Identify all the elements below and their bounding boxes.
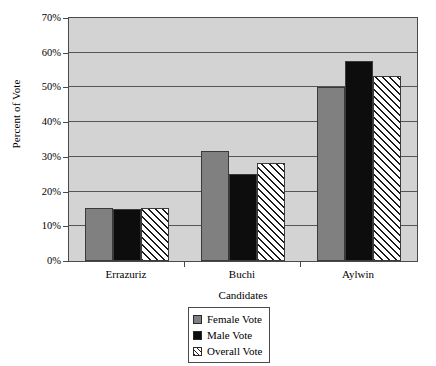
y-axis-tick-label: 10%: [0, 220, 68, 232]
x-axis-tick-mark: [300, 262, 301, 267]
bar-chart: Percent of Vote 0%10%20%30%40%50%60%70% …: [0, 0, 436, 366]
y-axis-tick-label: 30%: [0, 151, 68, 163]
bar-errazuriz-overall: [141, 208, 169, 261]
y-axis-tick-labels: 0%10%20%30%40%50%60%70%: [0, 0, 68, 246]
bar-errazuriz-female: [85, 208, 113, 261]
legend-item: Male Vote: [193, 327, 263, 343]
bar-aylwin-overall: [373, 76, 401, 261]
legend-swatch-male-icon: [193, 331, 202, 340]
legend-label: Male Vote: [207, 329, 252, 341]
bar-aylwin-male: [345, 61, 373, 261]
y-axis-tick-label: 50%: [0, 81, 68, 93]
legend-swatch-overall-icon: [193, 347, 202, 356]
legend-label: Overall Vote: [207, 345, 263, 357]
bar-errazuriz-male: [113, 209, 141, 261]
y-axis-tick-label: 40%: [0, 116, 68, 128]
x-axis-category-buchi: Buchi: [192, 268, 292, 280]
bar-aylwin-female: [317, 87, 345, 261]
chart-legend: Female VoteMale VoteOverall Vote: [188, 307, 270, 363]
y-axis-tick-label: 70%: [0, 12, 68, 24]
y-axis-tick-label: 20%: [0, 186, 68, 198]
x-axis-tick-mark: [184, 262, 185, 267]
x-axis-category-labels: ErrazurizBuchiAylwin: [68, 268, 418, 284]
legend-item: Overall Vote: [193, 343, 263, 359]
legend-swatch-female-icon: [193, 315, 202, 324]
bar-buchi-male: [229, 174, 257, 261]
x-axis-category-aylwin: Aylwin: [308, 268, 408, 280]
y-axis-tick-label: 60%: [0, 47, 68, 59]
legend-label: Female Vote: [207, 313, 262, 325]
y-axis-tick-label: 0%: [0, 255, 68, 267]
bar-buchi-female: [201, 151, 229, 261]
legend-item: Female Vote: [193, 311, 263, 327]
x-axis-category-errazuriz: Errazuriz: [76, 268, 176, 280]
plot-area: [68, 17, 418, 262]
bars-layer: [69, 18, 417, 261]
x-axis-title: Candidates: [68, 289, 418, 301]
bar-buchi-overall: [257, 163, 285, 261]
